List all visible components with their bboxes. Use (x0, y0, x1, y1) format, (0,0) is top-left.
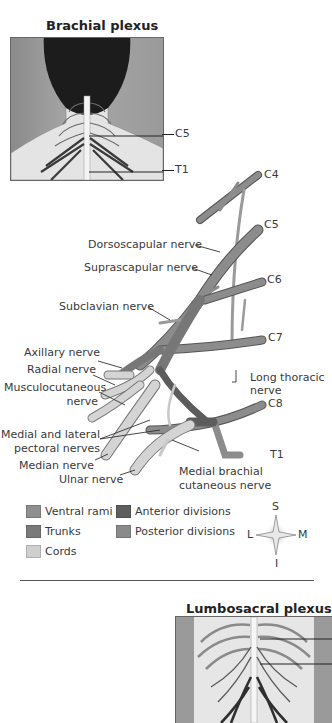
legend-item-trunks: Trunks (26, 525, 81, 538)
swatch-ventral-rami (26, 505, 41, 518)
label-musculocutaneous-nerve-line1: Musculocutaneous (4, 381, 98, 394)
swatch-anterior-divisions (116, 505, 131, 518)
orientation-compass: S I L M (244, 502, 304, 572)
lumbosacral-inset-image (175, 616, 332, 723)
legend-label: Cords (45, 545, 76, 558)
label-subclavian-nerve: Subclavian nerve (59, 300, 154, 313)
label-dorsoscapular-nerve: Dorsoscapular nerve (88, 238, 202, 251)
label-pectoral-nerves-line2: pectoral nerves (0, 442, 100, 455)
root-label-t1: T1 (270, 448, 284, 461)
swatch-trunks (26, 525, 41, 538)
compass-inferior: I (275, 557, 278, 570)
legend-label: Anterior divisions (135, 505, 231, 518)
root-label-c6: C6 (267, 273, 282, 286)
label-medial-brachial-cutaneous-line2: cutaneous nerve (179, 479, 271, 492)
swatch-posterior-divisions (116, 525, 131, 538)
root-label-c4: C4 (264, 168, 279, 181)
label-long-thoracic-nerve-line1: Long thoracic (250, 371, 325, 384)
label-musculocutaneous-nerve-line2: nerve (4, 395, 98, 408)
compass-medial: M (298, 528, 308, 541)
label-radial-nerve: Radial nerve (27, 363, 96, 376)
compass-lateral: L (247, 528, 253, 541)
label-median-nerve: Median nerve (19, 459, 94, 472)
legend-item-anterior-divisions: Anterior divisions (116, 505, 231, 518)
legend-label: Ventral rami (45, 505, 113, 518)
root-label-c5: C5 (264, 218, 279, 231)
legend-item-ventral-rami: Ventral rami (26, 505, 113, 518)
label-suprascapular-nerve: Suprascapular nerve (84, 261, 198, 274)
section-divider (20, 580, 314, 581)
label-medial-brachial-cutaneous-line1: Medial brachial (179, 465, 263, 478)
swatch-cords (26, 545, 41, 558)
label-ulnar-nerve: Ulnar nerve (59, 473, 123, 486)
legend-item-cords: Cords (26, 545, 76, 558)
label-long-thoracic-nerve-line2: nerve (250, 384, 282, 397)
legend-label: Posterior divisions (135, 525, 235, 538)
compass-superior: S (272, 500, 279, 513)
root-label-c7: C7 (268, 331, 283, 344)
lumbosacral-inset-title: Lumbosacral plexus (186, 601, 332, 616)
legend-item-posterior-divisions: Posterior divisions (116, 525, 235, 538)
lower-back-illustration (176, 617, 332, 723)
root-label-c8: C8 (268, 397, 283, 410)
label-axillary-nerve: Axillary nerve (24, 346, 100, 359)
label-pectoral-nerves-line1: Medial and lateral (0, 428, 100, 441)
legend-label: Trunks (45, 525, 81, 538)
